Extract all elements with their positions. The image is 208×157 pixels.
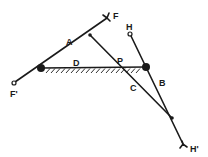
- label-p: P: [117, 56, 123, 66]
- right-pivot: [142, 63, 150, 71]
- ground-link-d: [41, 67, 146, 73]
- label-c: C: [130, 83, 137, 93]
- fork-h-prime-icon: [180, 141, 187, 148]
- label-d: D: [73, 58, 80, 68]
- label-f-prime: F': [10, 89, 18, 99]
- end-f-prime: [12, 81, 16, 85]
- label-h: H: [126, 22, 133, 32]
- left-pivot: [37, 64, 45, 72]
- label-f: F: [113, 11, 119, 21]
- link-c: [90, 35, 172, 118]
- label-h-prime: H': [190, 144, 199, 154]
- joint-b-c: [170, 116, 174, 120]
- label-b: B: [159, 78, 166, 88]
- joint-a-c: [88, 33, 92, 37]
- link-b: [131, 36, 183, 144]
- end-h: [128, 32, 132, 36]
- label-a: A: [66, 37, 73, 47]
- linkage-diagram: A F F' D P H C B H': [0, 0, 208, 157]
